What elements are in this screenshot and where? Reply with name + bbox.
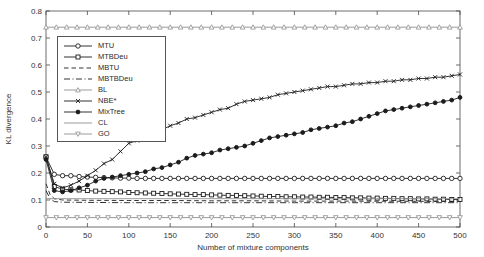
- legend-line-sample: [63, 107, 93, 117]
- legend-label: MBTU: [98, 63, 119, 73]
- dot-marker: [350, 120, 354, 124]
- circle-marker: [325, 176, 329, 180]
- square-marker: [359, 196, 363, 200]
- dot-marker: [367, 114, 371, 118]
- circle-marker: [226, 176, 230, 180]
- square-marker: [201, 193, 205, 197]
- circle-marker: [367, 176, 371, 180]
- dot-marker: [293, 132, 297, 136]
- legend-line-sample: [63, 74, 93, 84]
- legend-line-sample: [63, 85, 93, 95]
- circle-marker: [76, 43, 80, 47]
- dot-marker: [408, 105, 412, 109]
- square-marker: [135, 191, 139, 195]
- circle-marker: [458, 176, 462, 180]
- dot-marker: [450, 98, 454, 102]
- circle-marker: [176, 176, 180, 180]
- dot-marker: [102, 177, 106, 181]
- square-marker: [152, 191, 156, 195]
- circle-marker: [441, 176, 445, 180]
- square-marker: [226, 193, 230, 197]
- dot-marker: [276, 135, 280, 139]
- dot-marker: [317, 127, 321, 131]
- dot-marker: [218, 148, 222, 152]
- circle-marker: [185, 176, 189, 180]
- legend: MTUMTBDeuMBTUMBTBDeuBLNBE*MixTreeCLGO: [57, 36, 166, 142]
- circle-marker: [135, 176, 139, 180]
- y-axis-label: KL divergence: [4, 93, 13, 144]
- dot-marker: [143, 170, 147, 174]
- x-tick-label: 150: [164, 231, 178, 240]
- legend-item-mtu: MTU: [63, 40, 161, 51]
- dot-marker: [458, 96, 462, 100]
- circle-marker: [284, 176, 288, 180]
- square-marker: [218, 193, 222, 197]
- square-marker: [433, 197, 437, 201]
- y-tick-label: 0.7: [31, 34, 43, 43]
- dot-marker: [135, 171, 139, 175]
- circle-marker: [408, 176, 412, 180]
- circle-marker: [317, 176, 321, 180]
- square-marker: [160, 192, 164, 196]
- dot-marker: [177, 160, 181, 164]
- circle-marker: [292, 176, 296, 180]
- legend-item-nbestar: NBE*: [63, 95, 161, 106]
- square-marker: [350, 196, 354, 200]
- dot-marker: [442, 100, 446, 104]
- circle-marker: [450, 176, 454, 180]
- legend-line-sample: [63, 52, 93, 62]
- y-tick-label: 0: [38, 223, 43, 232]
- legend-label: MixTree: [98, 107, 125, 117]
- dot-marker: [94, 179, 98, 183]
- circle-marker: [350, 176, 354, 180]
- y-tick-label: 0.2: [31, 169, 43, 178]
- circle-marker: [251, 176, 255, 180]
- dot-marker: [359, 117, 363, 121]
- legend-label: NBE*: [98, 96, 116, 106]
- legend-line-sample: [63, 118, 93, 128]
- x-tick-label: 300: [288, 231, 302, 240]
- square-marker: [110, 190, 114, 194]
- series-bl: [44, 25, 463, 29]
- dot-marker: [259, 139, 263, 143]
- dot-marker: [400, 106, 404, 110]
- dot-marker: [375, 112, 379, 116]
- square-marker: [367, 196, 371, 200]
- legend-line-sample: [63, 129, 93, 139]
- dot-marker: [119, 174, 123, 178]
- square-marker: [168, 192, 172, 196]
- dot-marker: [110, 175, 114, 179]
- x-tick-label: 400: [371, 231, 385, 240]
- dot-marker: [44, 158, 48, 162]
- circle-marker: [433, 176, 437, 180]
- dot-marker: [342, 121, 346, 125]
- x-axis-label: Number of mixture components: [197, 243, 309, 252]
- square-marker: [102, 189, 106, 193]
- legend-label: GO: [98, 129, 110, 139]
- circle-marker: [392, 176, 396, 180]
- x-tick-label: 200: [205, 231, 219, 240]
- legend-item-mbtu: MBTU: [63, 62, 161, 73]
- circle-marker: [383, 176, 387, 180]
- circle-marker: [201, 176, 205, 180]
- square-marker: [176, 192, 180, 196]
- legend-line-sample: [63, 41, 93, 51]
- series-mtu: [44, 155, 462, 181]
- circle-marker: [143, 176, 147, 180]
- circle-marker: [193, 176, 197, 180]
- series-go: [44, 216, 463, 220]
- legend-label: MTBDeu: [98, 52, 128, 62]
- dot-marker: [392, 108, 396, 112]
- square-marker: [234, 193, 238, 197]
- dot-marker: [384, 109, 388, 113]
- square-marker: [127, 190, 131, 194]
- dot-marker: [301, 131, 305, 135]
- x-tick-label: 0: [44, 231, 49, 240]
- circle-marker: [334, 176, 338, 180]
- circle-marker: [60, 174, 64, 178]
- dot-marker: [425, 102, 429, 106]
- legend-line-sample: [63, 63, 93, 73]
- dot-marker: [61, 190, 65, 194]
- square-marker: [119, 190, 123, 194]
- y-tick-label: 0.5: [31, 88, 43, 97]
